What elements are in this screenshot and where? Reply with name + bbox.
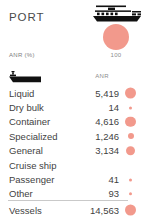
table-row[interactable]: Passenger 41 [0,172,150,186]
row-category: Passenger [0,174,66,185]
table-row[interactable]: Container 4,616 [0,115,150,129]
total-label: Vessels [0,205,66,216]
row-bubble-cell [119,86,150,100]
table-row[interactable]: Specialized 1,246 [0,129,150,143]
row-value: 1,246 [66,131,119,142]
row-category: Liquid [0,88,66,99]
row-category: Specialized [0,131,66,142]
row-bubble-cell [119,129,150,143]
row-bubble [128,133,134,139]
port-stats-panel: PORT 100 ANR (%) [0,0,150,219]
row-category: General [0,145,66,156]
table-row[interactable]: Other 93 [0,187,150,201]
row-bubble [129,192,133,196]
row-bubble-cell [119,172,150,186]
row-bubble [129,178,132,181]
row-bubble-cell [119,100,150,114]
row-value: 41 [66,174,119,185]
row-bubble [129,106,132,109]
row-value: 5,419 [66,88,119,99]
table-row[interactable]: General 3,134 [0,144,150,158]
row-category: Other [0,188,66,199]
tanker-vessel-icon [8,70,44,83]
row-bubble-cell [119,158,150,172]
row-value: 93 [66,188,119,199]
row-bubble-cell [119,115,150,129]
total-row: Vessels 14,563 [0,203,150,217]
table-row[interactable]: Cruise ship [0,158,150,172]
value-column-header: ANR [88,73,116,79]
stats-table: Liquid 5,419 Dry bulk 14 Container 4,616… [0,86,150,201]
total-divider [8,200,128,201]
table-row[interactable]: Dry bulk 14 [0,100,150,114]
total-value: 14,563 [66,205,119,216]
row-bubble-cell [119,144,150,158]
legend-bubble [103,24,129,50]
row-category: Dry bulk [0,102,66,113]
metric-subtitle: ANR (%) [9,52,35,58]
row-value: 4,616 [66,116,119,127]
total-bubble-cell [119,203,150,217]
row-value: 14 [66,102,119,113]
panel-header: PORT 100 [0,0,150,46]
table-row[interactable]: Liquid 5,419 [0,86,150,100]
row-bubble [125,88,136,99]
row-value: 3,134 [66,145,119,156]
row-category: Cruise ship [0,160,66,171]
row-bubble [125,117,136,128]
row-category: Container [0,116,66,127]
page-title: PORT [9,11,44,23]
total-bubble [125,205,136,216]
legend-bubble-value: 100 [103,52,129,58]
row-bubble [126,146,136,156]
cargo-ship-icon [88,3,142,23]
row-bubble-cell [119,187,150,201]
